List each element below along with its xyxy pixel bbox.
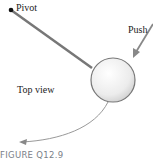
rod-line	[11, 10, 92, 68]
trajectory-arrowhead-icon	[19, 139, 27, 145]
ball-icon	[91, 58, 135, 102]
view-label: Top view	[17, 84, 54, 95]
pivot-point-icon	[9, 8, 14, 13]
pivot-label: Pivot	[16, 2, 37, 13]
push-label: Push	[128, 24, 147, 35]
figure-caption: FIGURE Q12.9	[0, 150, 63, 160]
trajectory-arrow-icon	[22, 102, 108, 142]
